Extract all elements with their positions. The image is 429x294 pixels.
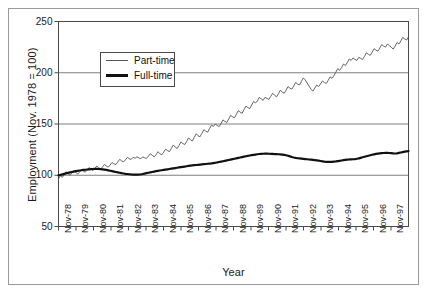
x-tick-label: Nov-96	[378, 203, 388, 232]
legend-line-icon-part-time	[106, 60, 128, 61]
y-axis-title: Employment (Nov. 1978 = 100)	[26, 47, 38, 202]
x-tick-label: Nov-82	[133, 203, 143, 232]
x-tick-label: Nov-78	[63, 203, 73, 232]
x-tick-label: Nov-87	[220, 203, 230, 232]
x-tick-label: Nov-80	[98, 203, 108, 232]
chart-legend: Part-time Full-time	[100, 52, 175, 87]
x-tick-label: Nov-95	[360, 203, 370, 232]
x-tick-label: Nov-94	[343, 203, 353, 232]
x-tick-label: Nov-91	[290, 203, 300, 232]
x-tick-label: Nov-81	[115, 203, 125, 232]
x-tick-label: Nov-90	[273, 203, 283, 232]
x-tick-label: Nov-97	[395, 203, 405, 232]
x-tick-label: Nov-86	[203, 203, 213, 232]
y-tick-label: 250	[31, 16, 53, 27]
x-tick-label: Nov-79	[80, 203, 90, 232]
line-chart-canvas	[0, 0, 429, 294]
legend-label-part-time: Part-time	[134, 56, 175, 66]
legend-line-icon-full-time	[106, 74, 128, 77]
x-tick-label: Nov-88	[238, 203, 248, 232]
x-tick-label: Nov-92	[308, 203, 318, 232]
x-tick-label: Nov-85	[185, 203, 195, 232]
y-tick-label: 50	[31, 221, 53, 232]
x-tick-label: Nov-89	[255, 203, 265, 232]
x-tick-label: Nov-83	[150, 203, 160, 232]
chart-figure: 50100150200250 Nov-78Nov-79Nov-80Nov-81N…	[0, 0, 429, 294]
x-tick-label: Nov-84	[168, 203, 178, 232]
x-axis-title: Year	[59, 266, 409, 278]
legend-item-full-time: Full-time	[101, 68, 174, 83]
x-tick-label: Nov-93	[325, 203, 335, 232]
legend-item-part-time: Part-time	[101, 53, 174, 68]
legend-label-full-time: Full-time	[134, 71, 172, 81]
